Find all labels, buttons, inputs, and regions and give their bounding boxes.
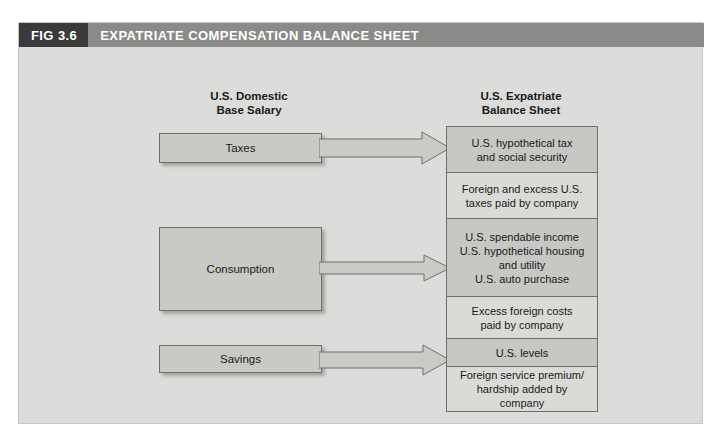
left-box-consumption: Consumption: [159, 227, 322, 311]
right-box-foreign-service-premium: Foreign service premium/ hardship added …: [446, 366, 598, 412]
left-column-heading-line2: Base Salary: [159, 103, 339, 117]
arrow-taxes-to-hypothetical-tax-icon: [319, 131, 451, 165]
right-column: U.S. hypothetical tax and social securit…: [446, 126, 598, 412]
figure-panel: FIG 3.6 EXPATRIATE COMPENSATION BALANCE …: [18, 22, 703, 424]
right-box-us-levels: U.S. levels: [446, 338, 598, 366]
left-column-heading-line1: U.S. Domestic: [159, 89, 339, 103]
arrow-savings-to-us-levels-icon: [319, 343, 451, 377]
right-box-line: Foreign service premium/: [453, 368, 591, 382]
right-column-heading-line2: Balance Sheet: [431, 103, 611, 117]
right-box-line: and social security: [472, 150, 573, 164]
right-box-hypothetical-tax: U.S. hypothetical tax and social securit…: [446, 126, 598, 172]
right-column-heading-line1: U.S. Expatriate: [431, 89, 611, 103]
left-box-consumption-label: Consumption: [207, 263, 275, 275]
figure-title: EXPATRIATE COMPENSATION BALANCE SHEET: [88, 23, 704, 47]
right-box-line: Foreign and excess U.S.: [462, 182, 582, 196]
right-box-spendable-income: U.S. spendable income U.S. hypothetical …: [446, 218, 598, 296]
figure-number-label: FIG 3.6: [19, 23, 88, 47]
right-box-excess-foreign-costs: Excess foreign costs paid by company: [446, 296, 598, 338]
right-column-heading: U.S. Expatriate Balance Sheet: [431, 89, 611, 117]
right-box-line: and utility: [460, 258, 585, 272]
left-box-taxes: Taxes: [159, 133, 322, 163]
figure-header: FIG 3.6 EXPATRIATE COMPENSATION BALANCE …: [19, 23, 704, 47]
arrow-consumption-to-spendable-income-icon: [319, 251, 451, 285]
right-box-line: Excess foreign costs: [472, 304, 573, 318]
right-box-line: U.S. levels: [496, 346, 549, 360]
right-box-line: hardship added by company: [453, 382, 591, 410]
left-column-heading: U.S. Domestic Base Salary: [159, 89, 339, 117]
right-box-line: U.S. hypothetical housing: [460, 244, 585, 258]
left-box-savings-label: Savings: [220, 353, 261, 365]
right-box-line: paid by company: [472, 318, 573, 332]
right-box-line: taxes paid by company: [462, 196, 582, 210]
left-box-savings: Savings: [159, 345, 322, 373]
right-box-line: U.S. hypothetical tax: [472, 136, 573, 150]
right-box-line: U.S. auto purchase: [460, 272, 585, 286]
right-box-foreign-excess-taxes: Foreign and excess U.S. taxes paid by co…: [446, 172, 598, 218]
left-box-taxes-label: Taxes: [225, 142, 255, 154]
right-box-line: U.S. spendable income: [460, 230, 585, 244]
